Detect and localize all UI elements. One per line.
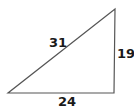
base-label: 24: [58, 94, 76, 109]
triangle-shape: [8, 9, 115, 93]
triangle-diagram: 31 19 24: [0, 0, 134, 109]
hypotenuse-label: 31: [49, 35, 67, 50]
vertical-side-label: 19: [117, 46, 134, 61]
